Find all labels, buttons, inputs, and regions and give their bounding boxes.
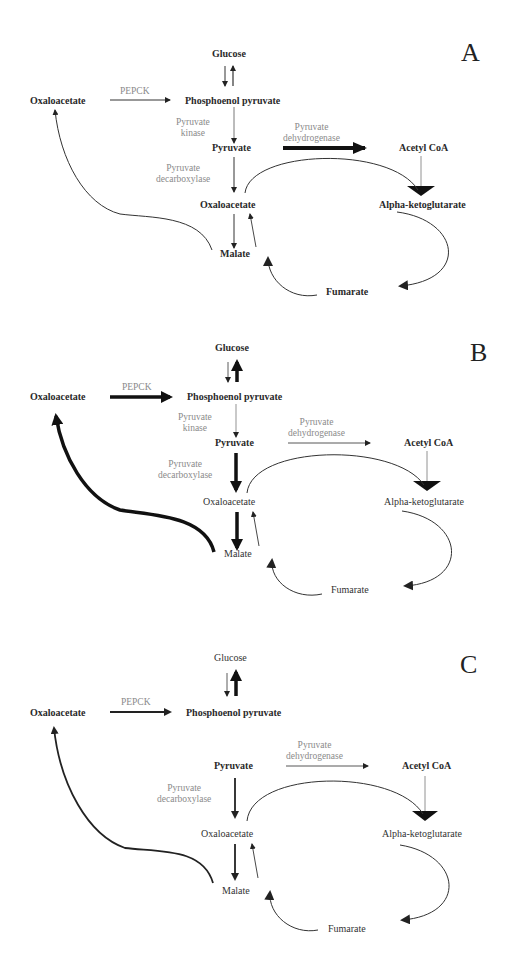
enzyme-pdh: Pyruvate dehydrogenase xyxy=(288,417,345,439)
panel-a-arrows xyxy=(0,0,512,320)
enzyme-pdc: Pyruvate decarboxylase xyxy=(157,783,211,805)
metabolite-glucose: Glucose xyxy=(214,653,247,663)
panel-c: C Glucose Oxaloacetate PEPCK Phosphoenol… xyxy=(0,630,512,980)
metabolite-pep: Phosphoenol pyruvate xyxy=(185,96,280,106)
metabolite-oxaloacetate-left: Oxaloacetate xyxy=(30,392,86,402)
metabolite-acetyl-coa: Acetyl CoA xyxy=(402,761,451,771)
metabolite-fumarate: Fumarate xyxy=(331,585,369,595)
panel-b: B Glucose Oxaloacetate PEPCK Phosphoenol… xyxy=(0,320,512,630)
metabolite-fumarate: Fumarate xyxy=(326,287,368,297)
metabolite-akg: Alpha-ketoglutarate xyxy=(382,829,462,839)
metabolite-malate: Malate xyxy=(224,549,252,559)
metabolite-malate: Malate xyxy=(220,249,250,259)
enzyme-pdh: Pyruvate dehydrogenase xyxy=(286,740,343,762)
metabolite-oxaloacetate: Oxaloacetate xyxy=(201,829,253,839)
metabolite-oxaloacetate-left: Oxaloacetate xyxy=(30,708,86,718)
metabolite-pyruvate: Pyruvate xyxy=(215,438,254,448)
panel-letter: A xyxy=(461,38,480,68)
metabolite-glucose: Glucose xyxy=(215,343,249,353)
metabolite-glucose: Glucose xyxy=(212,49,246,59)
metabolite-pep: Phosphoenol pyruvate xyxy=(186,708,281,718)
panel-letter: C xyxy=(460,650,477,680)
enzyme-pepck: PEPCK xyxy=(122,382,152,393)
metabolite-akg: Alpha-ketoglutarate xyxy=(384,497,464,507)
panel-b-arrows xyxy=(0,320,512,630)
metabolite-pyruvate: Pyruvate xyxy=(214,761,253,771)
metabolite-fumarate: Fumarate xyxy=(328,924,366,934)
enzyme-pyruvate-kinase: Pyruvate kinase xyxy=(178,412,212,434)
metabolite-oxaloacetate-left: Oxaloacetate xyxy=(30,96,86,106)
panel-c-arrows xyxy=(0,630,512,980)
enzyme-pyruvate-kinase: Pyruvate kinase xyxy=(176,117,210,139)
panel-letter: B xyxy=(470,338,487,368)
metabolite-oxaloacetate: Oxaloacetate xyxy=(200,200,256,210)
metabolite-malate: Malate xyxy=(222,886,250,896)
metabolite-acetyl-coa: Acetyl CoA xyxy=(404,438,453,448)
metabolite-akg: Alpha-ketoglutarate xyxy=(379,200,466,210)
enzyme-pdc: Pyruvate decarboxylase xyxy=(158,459,212,481)
enzyme-pepck: PEPCK xyxy=(121,697,151,708)
metabolite-acetyl-coa: Acetyl CoA xyxy=(399,143,448,153)
enzyme-pepck: PEPCK xyxy=(120,86,150,97)
metabolite-oxaloacetate: Oxaloacetate xyxy=(203,497,255,507)
enzyme-pdh: Pyruvate dehydrogenase xyxy=(283,122,340,144)
enzyme-pdc: Pyruvate decarboxylase xyxy=(156,163,210,185)
metabolite-pyruvate: Pyruvate xyxy=(212,143,251,153)
metabolite-pep: Phosphoenol pyruvate xyxy=(187,392,282,402)
panel-a: A Glucose Oxaloacetate PEPCK Phosphoenol… xyxy=(0,0,512,320)
